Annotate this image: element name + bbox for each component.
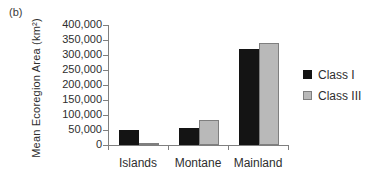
y-tick-label: 200,000 (30, 78, 102, 91)
x-category-label-montane: Montane (168, 156, 228, 170)
y-tick-mark (103, 85, 108, 86)
y-tick-mark (103, 25, 108, 26)
legend: Class I Class III (303, 68, 361, 102)
bar-mainland-class-iii (259, 43, 279, 145)
class-iii-swatch-icon (303, 91, 312, 100)
y-tick-label: 0 (30, 138, 102, 151)
legend-item-class-i: Class I (303, 68, 361, 81)
x-tick-mark (228, 146, 229, 150)
x-tick-mark (108, 146, 109, 150)
x-category-label-islands: Islands (108, 156, 168, 170)
legend-item-class-iii: Class III (303, 89, 361, 102)
y-tick-mark (103, 115, 108, 116)
x-tick-mark (168, 146, 169, 150)
y-tick-label: 350,000 (30, 33, 102, 46)
x-tick-mark (288, 146, 289, 150)
bar-mainland-class-i (239, 49, 259, 145)
plot-area (108, 25, 289, 146)
y-tick-label: 50,000 (30, 123, 102, 136)
y-tick-label: 100,000 (30, 108, 102, 121)
y-tick-label: 250,000 (30, 63, 102, 76)
y-tick-label: 300,000 (30, 48, 102, 61)
bar-montane-class-iii (199, 120, 219, 145)
bar-chart-panel-b: (b) Mean Ecoregion Area (km²) 050,000100… (0, 0, 370, 182)
bar-islands-class-iii (139, 143, 159, 145)
bar-montane-class-i (179, 128, 199, 145)
y-tick-mark (103, 100, 108, 101)
y-tick-mark (103, 40, 108, 41)
y-tick-mark (103, 130, 108, 131)
panel-label: (b) (9, 6, 22, 18)
y-tick-mark (103, 55, 108, 56)
class-i-swatch-icon (303, 70, 312, 79)
y-tick-mark (103, 70, 108, 71)
x-category-label-mainland: Mainland (228, 156, 288, 170)
y-tick-label: 150,000 (30, 93, 102, 106)
bar-islands-class-i (119, 130, 139, 145)
y-tick-label: 400,000 (30, 18, 102, 31)
legend-label-class-iii: Class III (318, 89, 361, 103)
legend-label-class-i: Class I (318, 68, 355, 82)
